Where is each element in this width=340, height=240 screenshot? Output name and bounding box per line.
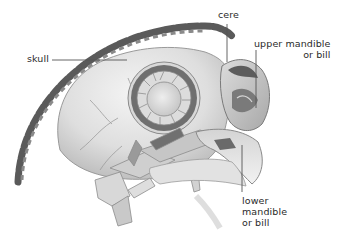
- label-cere: cere: [218, 9, 239, 20]
- label-lower-mandible-line1: lower: [242, 195, 287, 206]
- eye-socket: [128, 62, 200, 134]
- label-cere-text: cere: [218, 9, 239, 20]
- label-lower-mandible: lower mandible or bill: [242, 195, 287, 228]
- label-lower-mandible-line3: or bill: [242, 217, 287, 228]
- label-upper-mandible-line1: upper mandible: [254, 38, 331, 49]
- label-lower-mandible-line2: mandible: [242, 206, 287, 217]
- label-skull: skull: [27, 53, 49, 64]
- label-upper-mandible: upper mandible or bill: [254, 38, 331, 60]
- label-upper-mandible-line2: or bill: [254, 49, 331, 60]
- skull-illustration: [0, 0, 340, 240]
- upper-mandible-shape: [220, 60, 269, 131]
- label-skull-text: skull: [27, 53, 49, 64]
- skull-diagram: skull cere upper mandible or bill lower …: [0, 0, 340, 240]
